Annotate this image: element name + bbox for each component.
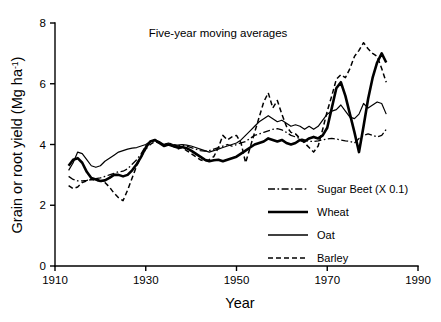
y-axis-tick-label: 8 xyxy=(40,17,46,29)
y-axis-tick-label: 0 xyxy=(40,260,46,272)
legend-label-sugar-beet-x-0-1: Sugar Beet (X 0.1) xyxy=(317,183,408,195)
x-axis-title: Year xyxy=(225,295,254,311)
chart-figure: 0246819101930195019701990 Five-year movi… xyxy=(0,0,441,322)
legend-label-oat: Oat xyxy=(317,229,335,241)
series-line-barley xyxy=(69,43,387,201)
y-axis-tick-label: 4 xyxy=(40,139,47,151)
legend-label-barley: Barley xyxy=(317,252,349,264)
x-axis-tick-label: 1910 xyxy=(42,274,68,286)
y-axis-title-tail: ) xyxy=(9,57,25,62)
data-series xyxy=(69,43,387,201)
y-axis-tick-label: 2 xyxy=(40,199,46,211)
y-axis-title-main: Grain or root yield (Mg ha xyxy=(9,68,25,233)
y-axis-title: Grain or root yield (Mg ha-1) xyxy=(9,57,25,234)
chart-title: Five-year moving averages xyxy=(149,27,288,39)
series-line-wheat xyxy=(69,53,387,181)
series-line-sugar-beet-x-0-1 xyxy=(69,129,387,181)
x-axis-tick-label: 1990 xyxy=(405,274,431,286)
x-axis-tick-label: 1970 xyxy=(314,274,340,286)
svg-text:Grain or root yield (Mg ha-1): Grain or root yield (Mg ha-1) xyxy=(9,57,25,234)
chart-legend: Sugar Beet (X 0.1)WheatOatBarley xyxy=(268,183,408,264)
x-axis-tick-label: 1930 xyxy=(133,274,159,286)
line-chart: 0246819101930195019701990 Five-year movi… xyxy=(0,0,441,322)
legend-label-wheat: Wheat xyxy=(317,206,349,218)
axes: 0246819101930195019701990 xyxy=(40,17,431,286)
x-axis-tick-label: 1950 xyxy=(224,274,250,286)
y-axis-tick-label: 6 xyxy=(40,78,46,90)
